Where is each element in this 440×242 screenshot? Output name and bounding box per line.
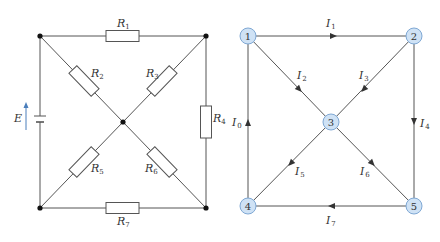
label-r3: R3: [145, 67, 159, 81]
label-i1: I1: [325, 17, 336, 31]
graph-node-5: 5: [406, 198, 422, 214]
label-i5: I5: [294, 165, 305, 179]
emf-arrowhead-icon: [24, 102, 29, 108]
graph-node-2: 2: [406, 28, 422, 44]
label-e: E: [13, 112, 22, 125]
junction-dot-br: [203, 205, 208, 210]
junction-dot-tl: [37, 33, 42, 38]
circuit-diagram: R1 R7 E R4 R2 R3 R5 R6: [13, 17, 226, 229]
label-i2: I2: [296, 69, 307, 83]
arrow-i4-icon: [411, 118, 417, 125]
svg-text:5: 5: [411, 201, 417, 212]
label-i7: I7: [325, 214, 336, 228]
arrow-i0-icon: [245, 119, 251, 126]
svg-text:4: 4: [245, 201, 251, 212]
label-r4: R4: [212, 112, 226, 126]
label-r2: R2: [90, 67, 104, 81]
edge-i3: [331, 36, 414, 122]
svg-text:2: 2: [411, 31, 417, 42]
junction-dot-bl: [37, 205, 42, 210]
arrow-i7-icon: [328, 203, 335, 209]
graph-node-3: 3: [323, 114, 339, 130]
resistor-r4: [201, 106, 212, 138]
junction-dot-tr: [203, 33, 208, 38]
arrow-i1-icon: [330, 33, 337, 39]
label-i0: I0: [231, 116, 242, 130]
label-r5: R5: [90, 162, 104, 176]
resistor-r1: [106, 31, 139, 42]
diagram-canvas: R1 R7 E R4 R2 R3 R5 R6: [0, 0, 440, 242]
label-i6: I6: [359, 165, 370, 179]
label-i3: I3: [358, 69, 369, 83]
resistor-r7: [106, 203, 139, 214]
label-r7: R7: [116, 215, 130, 229]
graph-diagram: I1 I2 I3 I4 I5 I6 I7 I0 1 2 3 4 5: [231, 17, 430, 228]
svg-text:3: 3: [328, 117, 334, 128]
svg-text:1: 1: [245, 31, 251, 42]
junction-dot-center: [120, 119, 125, 124]
graph-node-1: 1: [240, 28, 256, 44]
edge-i2: [248, 36, 331, 122]
label-i4: I4: [419, 117, 430, 131]
label-r1: R1: [116, 17, 130, 31]
graph-node-4: 4: [240, 198, 256, 214]
arrow-i3-icon: [359, 85, 368, 94]
